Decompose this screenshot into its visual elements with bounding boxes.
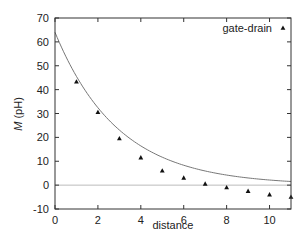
triangle-marker-icon bbox=[267, 192, 272, 196]
y-axis-label: M (pH) bbox=[12, 97, 24, 131]
axis-ticks bbox=[55, 18, 291, 209]
triangle-marker-icon bbox=[203, 181, 208, 185]
y-tick-label: 20 bbox=[37, 131, 49, 143]
x-tick-label: 10 bbox=[263, 214, 275, 226]
y-tick-label: 60 bbox=[37, 36, 49, 48]
triangle-marker-icon bbox=[181, 175, 186, 179]
x-tick-label: 2 bbox=[95, 214, 101, 226]
x-axis-label: distance bbox=[153, 219, 194, 231]
legend-label: gate-drain bbox=[222, 22, 272, 34]
y-tick-label: 30 bbox=[37, 108, 49, 120]
data-markers bbox=[74, 79, 293, 199]
y-tick-label: 50 bbox=[37, 60, 49, 72]
y-tick-label: 40 bbox=[37, 84, 49, 96]
triangle-marker-icon bbox=[117, 136, 122, 140]
triangle-marker-icon bbox=[281, 25, 286, 29]
fit-curve bbox=[55, 32, 291, 181]
x-tick-label: 8 bbox=[224, 214, 230, 226]
chart: 0246810 -10010203040506070 distance M (p… bbox=[0, 0, 304, 236]
y-tick-labels: -10010203040506070 bbox=[33, 12, 49, 215]
x-tick-label: 4 bbox=[138, 214, 144, 226]
legend-marker-triangle-icon bbox=[281, 25, 286, 29]
x-tick-label: 0 bbox=[52, 214, 58, 226]
y-tick-label: -10 bbox=[33, 203, 49, 215]
legend: gate-drain bbox=[222, 22, 285, 34]
triangle-marker-icon bbox=[246, 188, 251, 192]
y-tick-label: 10 bbox=[37, 155, 49, 167]
y-tick-label: 0 bbox=[43, 179, 49, 191]
y-axis-label-unit: (pH) bbox=[12, 97, 24, 121]
y-tick-label: 70 bbox=[37, 12, 49, 24]
plot-frame bbox=[55, 18, 291, 209]
triangle-marker-icon bbox=[160, 168, 165, 172]
triangle-marker-icon bbox=[138, 155, 143, 159]
